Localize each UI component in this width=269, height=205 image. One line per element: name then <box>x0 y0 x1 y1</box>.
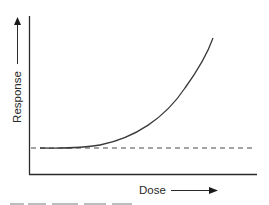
x-axis-label: Dose <box>139 184 166 196</box>
right-arrow-icon <box>209 187 218 194</box>
y-axis-label: Response <box>11 71 23 123</box>
y-axis-label-group: Response <box>11 17 23 123</box>
dose-response-figure: Response Dose <box>0 0 269 205</box>
response-curve <box>40 38 213 148</box>
up-arrow-icon <box>14 17 21 25</box>
x-axis-label-group: Dose <box>139 184 218 196</box>
cropped-caption-remnant <box>10 203 132 205</box>
